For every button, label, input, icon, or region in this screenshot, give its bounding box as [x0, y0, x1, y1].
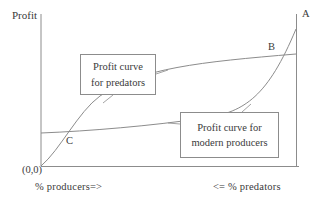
point-label-c: C [66, 135, 73, 147]
x-axis-left-caption: % producers=> [35, 181, 102, 193]
predators-callout-leader [103, 95, 113, 103]
callout-predators-line1: Profit curve [93, 59, 143, 74]
callout-modern-producers: Profit curve for modern producers [180, 112, 279, 158]
callout-producers-line2: modern producers [191, 135, 267, 150]
figure-canvas [0, 0, 320, 205]
y-axis-title: Profit [12, 9, 37, 22]
point-label-b: B [268, 41, 275, 53]
point-label-a: A [302, 8, 310, 20]
callout-predators: Profit curve for predators [80, 54, 156, 95]
callout-predators-line2: for predators [91, 75, 145, 90]
callout-producers-line1: Profit curve for [197, 120, 262, 135]
origin-label: (0,0) [22, 164, 42, 176]
producers-callout-leader-left [168, 123, 180, 124]
x-axis-right-caption: <= % predators [213, 181, 281, 193]
profit-curves-figure: Profit A B C (0,0) % producers=> <= % pr… [0, 0, 320, 205]
